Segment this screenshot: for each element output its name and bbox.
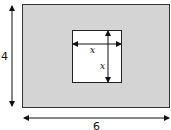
height-label: 4 — [1, 50, 8, 63]
inner-height-label: x — [100, 61, 105, 71]
inner-width-label: x — [90, 45, 95, 55]
inner-square — [73, 31, 122, 83]
diagram-canvas: 4 6 x x — [0, 0, 171, 130]
width-label: 6 — [93, 120, 100, 130]
